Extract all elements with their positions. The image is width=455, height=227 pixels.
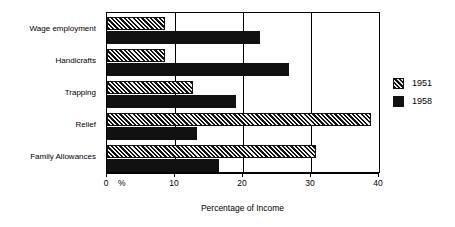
bar-family-allowances-1958 <box>107 159 219 172</box>
tick-label-0: 0 <box>104 178 109 188</box>
tick-30 <box>310 172 311 177</box>
legend-item-1958: 1958 <box>393 94 453 112</box>
bar-wage-employment-1958 <box>107 31 260 44</box>
bar-chart: Wage employment Handicrafts Trapping Rel… <box>0 0 455 227</box>
legend-label-1958: 1958 <box>412 95 432 107</box>
percent-symbol: % <box>118 178 126 188</box>
x-axis-title: Percentage of Income <box>106 203 379 213</box>
tick-label-20: 20 <box>237 178 246 188</box>
tick-40 <box>378 172 379 177</box>
bar-handicrafts-1958 <box>107 63 289 76</box>
plot-inner <box>107 13 379 173</box>
bar-relief-1958 <box>107 127 197 140</box>
plot-area <box>106 12 380 173</box>
bar-family-allowances-1951 <box>107 145 316 158</box>
bar-trapping-1958 <box>107 95 236 108</box>
category-axis-labels: Wage employment Handicrafts Trapping Rel… <box>0 12 100 172</box>
solid-swatch-icon <box>393 96 404 107</box>
tick-label-40: 40 <box>373 178 382 188</box>
bar-trapping-1951 <box>107 81 193 94</box>
bar-relief-1951 <box>107 113 371 126</box>
tick-10 <box>174 172 175 177</box>
category-label-wage-employment: Wage employment <box>0 24 96 33</box>
bar-handicrafts-1951 <box>107 49 165 62</box>
tick-0 <box>106 172 107 177</box>
tick-label-10: 10 <box>169 178 178 188</box>
category-label-family-allowances: Family Allowances <box>0 152 96 161</box>
category-label-trapping: Trapping <box>0 88 96 97</box>
legend-item-1951: 1951 <box>393 76 453 94</box>
tick-20 <box>242 172 243 177</box>
category-label-handicrafts: Handicrafts <box>0 56 96 65</box>
category-label-relief: Relief <box>0 120 96 129</box>
legend: 1951 1958 <box>393 76 453 112</box>
bar-wage-employment-1951 <box>107 17 165 30</box>
tick-label-30: 30 <box>305 178 314 188</box>
hatched-swatch-icon <box>393 78 404 89</box>
legend-label-1951: 1951 <box>412 77 432 89</box>
